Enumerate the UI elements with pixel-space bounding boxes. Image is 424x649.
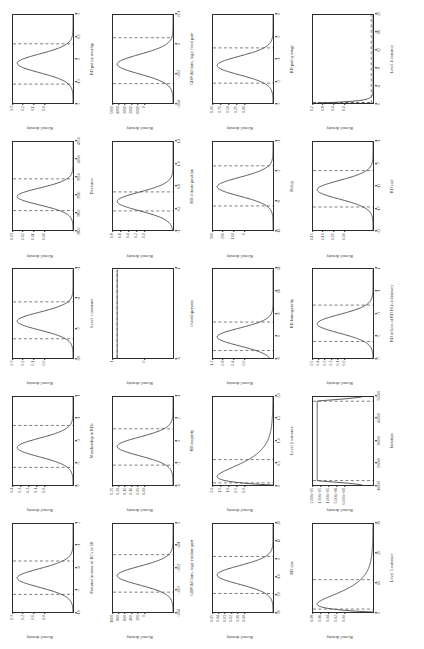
y-tick-label: 0.08 <box>310 615 314 622</box>
y-tick-label: 0.3 <box>10 361 14 366</box>
x-tick-label: 1 <box>77 395 81 397</box>
density-panel: Kernel density010002000300040005000-.004… <box>104 7 204 134</box>
x-tick-mark <box>75 328 77 329</box>
density-curve <box>217 15 273 103</box>
x-tick-mark <box>275 201 277 202</box>
y-tick-label: 0 <box>142 361 146 363</box>
x-tick-group: -.004-.0020.001 <box>177 14 186 104</box>
x-axis-label: RD size <box>289 523 297 613</box>
x-tick-mark <box>75 523 77 524</box>
density-curve-svg <box>313 524 373 612</box>
density-curve <box>17 15 73 103</box>
x-tick-mark <box>275 231 277 232</box>
y-tick-label: 0.01 <box>236 615 240 622</box>
x-tick-label: 20 <box>377 12 381 16</box>
y-tick-group: 0.000.010.020.03 <box>12 231 74 247</box>
y-axis-label-text: Kernel density <box>26 508 53 513</box>
x-tick-mark <box>275 595 277 596</box>
x-tick-mark <box>75 231 77 232</box>
x-tick-label: 0 <box>377 103 381 105</box>
y-tick-group: 02004006008001000 <box>112 613 174 629</box>
x-tick-mark <box>375 291 377 292</box>
x-tick-group: -10-7-4-12 <box>77 523 86 613</box>
x-tick-label: 10 <box>277 539 281 543</box>
x-tick-mark <box>375 164 377 165</box>
x-tick-mark <box>375 86 377 87</box>
density-curve-svg <box>13 142 73 230</box>
y-tick-group: 0.00.40.81.2 <box>312 104 374 120</box>
y-tick-label: 0.3 <box>323 361 327 366</box>
x-tick-mark <box>175 395 177 396</box>
x-tick-mark <box>75 81 77 82</box>
x-tick-mark <box>275 577 277 578</box>
density-panel: Kernel density0.00.10.20.30.4-7-5-3-11Me… <box>4 389 104 516</box>
x-tick-mark <box>275 418 277 419</box>
x-axis-label: RD climate position <box>189 141 197 231</box>
x-tick-label: 1 <box>277 13 281 15</box>
density-curve-svg <box>13 15 73 103</box>
density-curve-svg <box>213 142 273 230</box>
x-tick-mark <box>275 313 277 314</box>
y-tick-label: 0.2 <box>329 361 333 366</box>
y-tick-label: 0.2 <box>26 488 30 493</box>
density-panel: Kernel density0.00.10.20.3-3-1.501.53RD … <box>4 7 104 134</box>
plot-area <box>212 523 274 613</box>
y-tick-group: 01 <box>112 359 174 375</box>
x-tick-label: -1.5 <box>77 79 81 85</box>
x-tick-label: -6 <box>277 200 281 203</box>
y-tick-label: 3000 <box>123 106 127 114</box>
y-tick-label: 200 <box>221 233 225 239</box>
x-tick-mark <box>375 231 377 232</box>
y-axis-label: Kernel density <box>304 378 374 390</box>
y-tick-label: 0.00 <box>242 106 246 113</box>
x-tick-label: -7 <box>77 327 81 330</box>
y-tick-group: 0.00.10.20.30.40.5 <box>312 359 374 375</box>
x-tick-mark <box>275 171 277 172</box>
y-tick-label: 0.4 <box>231 361 235 366</box>
x-axis-label: RD policy range <box>289 14 297 104</box>
x-tick-label: 1 <box>377 267 381 269</box>
plot-area <box>112 268 174 358</box>
x-tick-mark <box>275 14 277 15</box>
y-tick-label: 0.6 <box>118 233 122 238</box>
x-tick-mark <box>275 59 277 60</box>
y-tick-label: 0.0 <box>242 361 246 366</box>
density-curve <box>317 269 373 357</box>
density-curve <box>17 524 73 612</box>
x-tick-group: -10.20.61.01.4 <box>177 141 186 231</box>
x-axis-label: Level 2 variance <box>289 396 297 486</box>
y-tick-label: 1000 <box>110 615 114 623</box>
density-panel: Kernel density0.00.10.20.3-10-7-4-1Level… <box>4 261 104 388</box>
x-tick-label: 0 <box>277 485 281 487</box>
y-tick-group: 0.000.020.040.060.08 <box>312 613 374 629</box>
x-tick-label: -5 <box>377 334 381 337</box>
y-axis-label: Kernel density <box>104 378 174 390</box>
density-panel: Kernel density0.000.010.020.030.040.05-3… <box>204 516 304 643</box>
x-tick-label: 20 <box>277 521 281 525</box>
x-tick-mark <box>375 186 377 187</box>
density-curve <box>217 142 273 230</box>
x-axis-label: Membership in RDs <box>89 396 97 486</box>
y-axis-label-text: Kernel density <box>226 381 253 386</box>
x-axis-label: Policy <box>289 141 297 231</box>
y-tick-label: 0.02 <box>229 615 233 622</box>
y-axis-label-text: Kernel density <box>326 381 353 386</box>
y-tick-group: 0.000.050.100.15 <box>312 231 374 247</box>
x-tick-label: -1 <box>77 417 81 420</box>
plot-area <box>112 396 174 486</box>
y-axis-label-text: Kernel density <box>126 127 153 132</box>
density-curve <box>117 142 173 230</box>
x-axis-label: Level 3 variance <box>389 523 397 613</box>
x-tick-mark <box>75 590 77 591</box>
y-tick-label: 4000 <box>116 106 120 114</box>
x-tick-mark <box>175 358 177 359</box>
density-curve <box>117 15 173 103</box>
x-tick-label: -7 <box>377 357 381 360</box>
x-tick-mark <box>75 298 77 299</box>
x-tick-mark <box>375 336 377 337</box>
x-tick-label: 0 <box>177 440 181 442</box>
x-tick-label: 8 <box>277 313 281 315</box>
x-tick-group: 00.51.01.52.0 <box>277 396 286 486</box>
x-tick-mark <box>75 418 77 419</box>
x-tick-mark <box>175 209 177 210</box>
